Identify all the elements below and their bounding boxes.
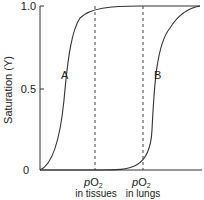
curve-b-label: B [154, 69, 161, 81]
chart: 1.0 0.5 0 Saturation (Y) A B pO2 in tiss… [0, 0, 204, 200]
ytick-0: 0 [23, 164, 29, 176]
curve-b [40, 6, 200, 170]
lungs-text: in lungs [126, 188, 160, 199]
y-axis-label: Saturation (Y) [2, 56, 14, 124]
ytick-1: 1.0 [21, 0, 36, 12]
ytick-05: 0.5 [21, 83, 36, 95]
curve-a [40, 6, 200, 170]
tissues-text: in tissues [75, 188, 117, 199]
curve-a-label: A [61, 69, 69, 81]
